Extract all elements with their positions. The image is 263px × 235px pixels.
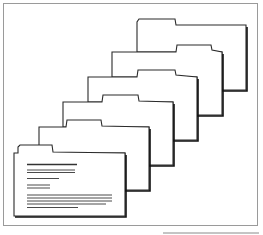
folder-1-front: [14, 145, 126, 217]
stacked-folders-diagram: [0, 0, 263, 235]
